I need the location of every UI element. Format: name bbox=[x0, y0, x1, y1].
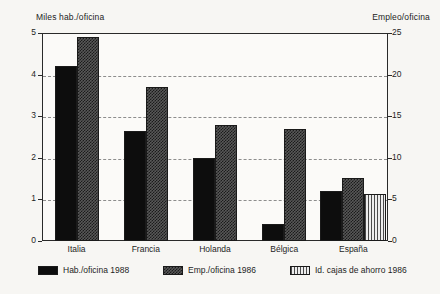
bar bbox=[146, 87, 168, 241]
legend-swatch-stripe bbox=[290, 266, 310, 275]
legend-swatch-solid bbox=[38, 266, 58, 275]
right-axis-title: Empleo/oficina bbox=[372, 12, 430, 22]
bar-group bbox=[180, 33, 249, 241]
bar bbox=[193, 158, 215, 241]
category-labels: ItaliaFranciaHolandaBélgicaEspaña bbox=[42, 244, 388, 258]
bar bbox=[77, 37, 99, 241]
bar-group bbox=[250, 33, 319, 241]
left-axis-ticks: 012345 bbox=[14, 33, 36, 241]
chart-legend: Hab./oficina 1988Emp./oficina 1986Id. ca… bbox=[0, 265, 440, 281]
category-label: Bélgica bbox=[270, 244, 298, 254]
right-tick-label: 0 bbox=[392, 236, 414, 245]
legend-item: Emp./oficina 1986 bbox=[163, 265, 256, 275]
bar-group bbox=[42, 33, 111, 241]
legend-label: Id. cajas de ahorro 1986 bbox=[315, 265, 407, 275]
right-tick-label: 25 bbox=[392, 28, 414, 37]
legend-item: Hab./oficina 1988 bbox=[38, 265, 129, 275]
bar-group bbox=[319, 33, 388, 241]
legend-swatch-checker bbox=[163, 266, 183, 275]
left-tick-label: 4 bbox=[14, 70, 36, 79]
category-label: Holanda bbox=[199, 244, 231, 254]
right-tick-mark bbox=[388, 116, 392, 117]
chart-figure: Miles hab./oficina Empleo/oficina 012345… bbox=[0, 0, 440, 294]
right-tick-label: 20 bbox=[392, 70, 414, 79]
right-tick-label: 10 bbox=[392, 153, 414, 162]
legend-item: Id. cajas de ahorro 1986 bbox=[290, 265, 407, 275]
bar bbox=[55, 66, 77, 241]
left-tick-label: 3 bbox=[14, 111, 36, 120]
left-tick-mark bbox=[38, 241, 42, 242]
right-tick-mark bbox=[388, 241, 392, 242]
right-tick-label: 15 bbox=[392, 111, 414, 120]
left-axis-title: Miles hab./oficina bbox=[36, 12, 104, 22]
bar bbox=[215, 125, 237, 241]
bar bbox=[364, 194, 386, 241]
right-tick-label: 5 bbox=[392, 194, 414, 203]
left-tick-label: 2 bbox=[14, 153, 36, 162]
bar bbox=[284, 129, 306, 241]
left-tick-label: 5 bbox=[14, 28, 36, 37]
right-tick-mark bbox=[388, 158, 392, 159]
bar-group bbox=[111, 33, 180, 241]
bar bbox=[262, 224, 284, 241]
legend-label: Hab./oficina 1988 bbox=[63, 265, 129, 275]
category-label: España bbox=[339, 244, 368, 254]
left-tick-label: 1 bbox=[14, 194, 36, 203]
right-tick-mark bbox=[388, 75, 392, 76]
right-tick-mark bbox=[388, 199, 392, 200]
right-tick-mark bbox=[388, 33, 392, 34]
category-label: Francia bbox=[132, 244, 160, 254]
left-tick-label: 0 bbox=[14, 236, 36, 245]
category-label: Italia bbox=[68, 244, 86, 254]
right-axis-ticks: 0510152025 bbox=[392, 33, 416, 241]
bar bbox=[320, 191, 342, 241]
bar bbox=[342, 178, 364, 241]
bar-groups bbox=[42, 33, 388, 241]
bar bbox=[124, 131, 146, 241]
legend-label: Emp./oficina 1986 bbox=[188, 265, 256, 275]
